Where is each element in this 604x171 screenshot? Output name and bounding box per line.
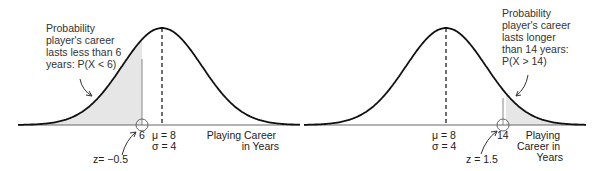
left-chart: Probability player's career lasts less t… [18, 22, 300, 165]
right-annotation-arrow [516, 75, 528, 96]
right-z-arrow [481, 131, 497, 154]
left-sigma-label: σ = 4 [152, 140, 176, 152]
left-z-arrow [122, 132, 136, 155]
chart-canvas: Probability player's career lasts less t… [0, 0, 604, 171]
right-x-axis-label: Playing Career in Years [517, 129, 563, 163]
right-cutoff-label: 14 [497, 129, 509, 141]
right-z-label: z = 1.5 [466, 153, 498, 165]
right-chart: Probability player's career lasts longer… [304, 7, 586, 165]
left-annotation: Probability player's career lasts less t… [46, 22, 124, 70]
left-cutoff-label: 6 [139, 129, 145, 141]
left-x-axis-label: Playing Career in Years [207, 129, 279, 152]
left-z-label: z= −0.5 [93, 153, 128, 165]
right-annotation: Probability player's career lasts longer… [502, 7, 573, 67]
right-sigma-label: σ = 4 [432, 140, 456, 152]
